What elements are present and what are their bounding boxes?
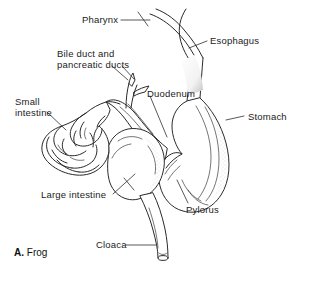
leader-esophagus (189, 41, 207, 48)
label-duodenum: Duodenum (147, 88, 195, 100)
anatomy-illustration (0, 0, 309, 281)
label-bile-ducts-line2: pancreatic ducts (57, 59, 129, 71)
pharynx-tube (150, 9, 203, 58)
leader-duodenum (150, 96, 167, 137)
frog-digestive-system-figure: Pharynx Esophagus Bile duct and pancreat… (0, 0, 309, 281)
label-cloaca: Cloaca (96, 239, 127, 251)
leader-stomach (226, 116, 244, 120)
figure-caption: A. Frog (14, 247, 47, 258)
label-large-intestine: Large intestine (41, 189, 106, 201)
label-pharynx: Pharynx (82, 14, 118, 26)
label-small-intestine-line1: Small (15, 96, 40, 108)
caption-label: Frog (27, 247, 48, 258)
stomach-sac (159, 98, 229, 212)
caption-prefix: A. (14, 247, 24, 258)
label-small-intestine-line2: intestine (15, 107, 52, 119)
label-stomach: Stomach (248, 111, 287, 123)
label-esophagus: Esophagus (210, 35, 259, 47)
label-bile-ducts-line1: Bile duct and (57, 48, 114, 60)
leader-pharynx-tick-a (138, 12, 148, 26)
cloaca-opening (140, 193, 168, 260)
label-pylorus: Pylorus (186, 204, 219, 216)
large-intestine-sac (108, 128, 165, 199)
